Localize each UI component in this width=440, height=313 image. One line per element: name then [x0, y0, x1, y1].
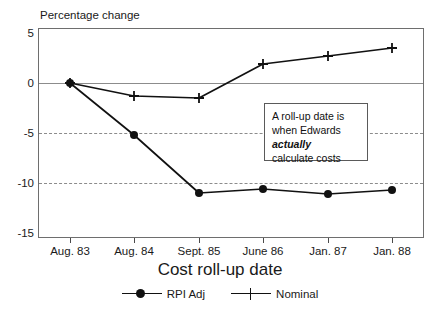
annotation-line-2: when Edwards actually [272, 123, 367, 151]
legend-label-nominal: Nominal [276, 288, 318, 300]
x-tick-label-aug-84: Aug. 84 [114, 245, 154, 257]
x-tick-mark-3 [263, 238, 264, 243]
x-tick-mark-0 [70, 238, 71, 243]
x-tick-label-aug-83: Aug. 83 [50, 245, 90, 257]
y-tick-m10: -10 [2, 177, 34, 189]
gridline-minus10 [39, 183, 423, 184]
x-tick-label-june-86: June 86 [243, 245, 284, 257]
x-tick-mark-1 [134, 238, 135, 243]
x-tick-label-jan-88: Jan. 88 [373, 245, 411, 257]
y-tick-5: 5 [2, 27, 34, 39]
x-tick-mark-4 [328, 238, 329, 243]
legend-item-rpi-adj[interactable]: RPI Adj [122, 288, 205, 300]
plus-marker-icon [231, 288, 271, 300]
chart-legend: RPI Adj Nominal [0, 288, 440, 300]
annotation-line-2-emphasis: actually [272, 138, 311, 150]
x-tick-label-jan-87: Jan. 87 [309, 245, 347, 257]
y-tick-0: 0 [2, 77, 34, 89]
x-tick-mark-2 [199, 238, 200, 243]
x-tick-label-sept-85: Sept. 85 [178, 245, 221, 257]
filled-circle-marker-icon [122, 288, 162, 300]
x-tick-mark-5 [392, 238, 393, 243]
x-axis-title: Cost roll-up date [0, 260, 440, 280]
y-tick-m15: -15 [2, 227, 34, 239]
chart-container: Percentage change 5 0 -5 -10 -15 Aug. 83… [0, 0, 440, 313]
legend-item-nominal[interactable]: Nominal [231, 288, 318, 300]
annotation-line-3: calculate costs [272, 151, 367, 165]
legend-label-rpi-adj: RPI Adj [167, 288, 205, 300]
y-axis-title: Percentage change [40, 9, 140, 21]
y-tick-m5: -5 [2, 127, 34, 139]
annotation-line-2-prefix: when Edwards [272, 124, 341, 136]
annotation-roll-up-date: A roll-up date is when Edwards actually … [264, 103, 368, 161]
annotation-line-1: A roll-up date is [272, 109, 367, 123]
gridline-zero [39, 83, 423, 84]
